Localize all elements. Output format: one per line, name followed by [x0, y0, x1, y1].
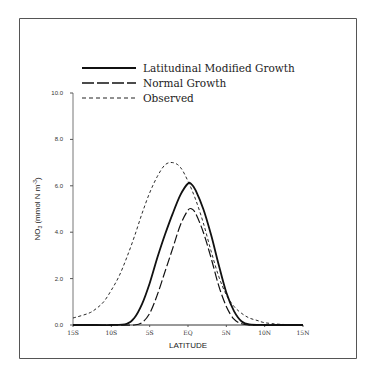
legend: Latitudinal Modified Growth Normal Growt… — [82, 62, 295, 104]
x-tick-label: 5S — [146, 329, 154, 336]
svg-text:NO3 (mmol N m-3): NO3 (mmol N m-3) — [32, 177, 43, 241]
y-tick-label: 6.0 — [55, 183, 64, 189]
chart-figure: Latitudinal Modified Growth Normal Growt… — [0, 0, 374, 376]
x-axis-label: LATITUDE — [169, 341, 207, 350]
series-line-dashed — [73, 208, 303, 325]
plot-area — [73, 162, 303, 325]
y-tick-label: 4.0 — [55, 229, 64, 235]
y-axis-label: NO3 (mmol N m-3) — [32, 177, 43, 241]
x-axis: 15S10S5SEQ5N10N15N — [67, 325, 309, 336]
y-tick-label: 2.0 — [55, 276, 64, 282]
x-tick-label: 15S — [67, 329, 79, 336]
y-tick-label: 10.0 — [51, 90, 63, 96]
x-tick-label: 10S — [105, 329, 117, 336]
y-tick-label: 0.0 — [55, 322, 64, 328]
x-tick-label: 10N — [258, 329, 271, 336]
x-tick-label: 5N — [222, 329, 231, 336]
series-line-solid — [73, 183, 303, 325]
legend-label-observed: Observed — [143, 92, 194, 104]
legend-label-modified: Latitudinal Modified Growth — [143, 62, 295, 74]
series-line-dotted-dash — [73, 162, 303, 325]
y-tick-label: 8.0 — [55, 136, 64, 142]
x-tick-label: 15N — [297, 329, 310, 336]
x-tick-label: EQ — [183, 329, 192, 336]
y-axis: 0.02.04.06.08.010.0 — [51, 90, 73, 328]
legend-label-normal: Normal Growth — [143, 77, 226, 89]
